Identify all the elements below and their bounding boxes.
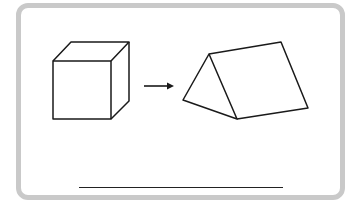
answer-blank-line[interactable] xyxy=(79,187,283,188)
cube-icon xyxy=(53,42,129,119)
arrow-right-icon xyxy=(144,83,174,90)
triangular-prism-icon xyxy=(183,42,308,119)
figure-canvas xyxy=(0,0,352,204)
